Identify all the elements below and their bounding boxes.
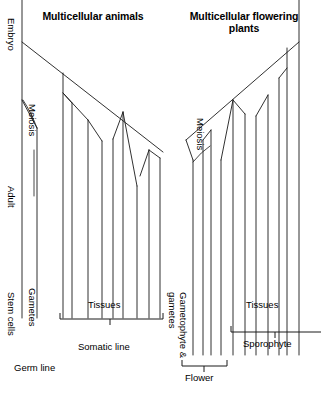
diagram-canvas: Multicellular animals Multicellular flow… xyxy=(0,0,321,393)
label-gametes: Gametes xyxy=(27,288,38,327)
label-germ-line: Germ line xyxy=(14,362,58,373)
flower-bracket xyxy=(182,360,227,366)
gametophyte-meiosis-branch xyxy=(186,140,193,160)
left-panel-lines xyxy=(22,0,163,318)
lineage-branch xyxy=(123,112,137,186)
label-meiosis-left: Meiosis xyxy=(27,104,38,136)
right-panel-lines xyxy=(186,0,299,355)
title-multicellular-animals: Multicellular animals xyxy=(38,10,148,22)
sporophyte-bracket xyxy=(231,326,321,332)
lineage-branch xyxy=(233,100,245,114)
lineage-branch xyxy=(256,95,268,116)
embryo-to-adult-diagonal xyxy=(22,42,163,152)
lineage-branch xyxy=(149,150,160,158)
lineage-branch xyxy=(88,120,102,141)
leader-lines-group xyxy=(23,100,210,196)
lineage-branch xyxy=(63,93,88,120)
label-flower: Flower xyxy=(185,372,214,383)
label-tissues-left: Tissues xyxy=(88,299,120,310)
tissues-bracket-left xyxy=(60,313,163,319)
lineage-branch xyxy=(113,112,123,139)
lineage-branch xyxy=(279,68,287,78)
lineage-diagram-svg xyxy=(0,0,321,393)
lineage-branch xyxy=(221,100,233,160)
label-gametophyte-and-gametes: Gametophyte & gametes xyxy=(167,292,188,362)
label-somatic-line: Somatic line xyxy=(78,341,130,352)
label-meiosis-right: Meiosis xyxy=(195,118,206,150)
label-stem-cells: Stem cells xyxy=(6,292,17,336)
title-multicellular-flowering-plants: Multicellular flowering plants xyxy=(178,10,310,34)
label-embryo: Embryo xyxy=(6,18,17,51)
lineage-branch xyxy=(140,150,149,176)
label-sporophyte: Sporophyte xyxy=(243,338,292,349)
label-adult: Adult xyxy=(6,186,17,208)
label-tissues-right: Tissues xyxy=(246,299,278,310)
